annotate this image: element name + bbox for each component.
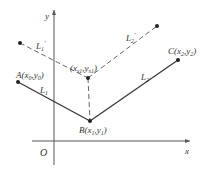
line-L1-label: L1 (39, 85, 48, 96)
point-C-label: C(x2,y2) (168, 46, 196, 57)
point-S (86, 76, 90, 80)
line-L2-prime-label: L2′ (125, 31, 136, 44)
diagram-canvas: y x O A(x0,y0) B(x1,y1) C(x2,y2) (xs1,ys… (0, 0, 212, 170)
line-vertical-dashed (88, 78, 90, 121)
point-B (88, 119, 92, 123)
line-L2-prime (88, 26, 157, 78)
x-axis-label: x (184, 146, 189, 156)
point-A (16, 80, 20, 84)
y-axis-label: y (44, 11, 49, 21)
coordinate-diagram: y x O A(x0,y0) B(x1,y1) C(x2,y2) (xs1,ys… (0, 0, 212, 170)
point-upper-left (18, 41, 22, 45)
line-L2 (90, 60, 178, 121)
line-L1-prime-label: L1′ (35, 39, 46, 52)
point-C (176, 58, 180, 62)
point-B-label: B(x1,y1) (79, 125, 107, 136)
point-S-label: (xs1,ys1) (70, 63, 97, 74)
point-A-label: A(x0,y0) (15, 70, 44, 81)
origin-label: O (40, 147, 47, 158)
point-upper-right (155, 24, 159, 28)
line-L2-label: L2 (140, 72, 149, 83)
